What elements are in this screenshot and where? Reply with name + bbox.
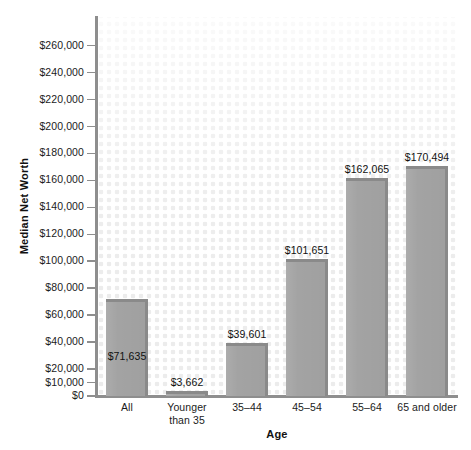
y-axis-tick-mark — [87, 287, 95, 289]
bar-value-label: $39,601 — [211, 328, 283, 340]
y-axis-tick-mark — [87, 126, 95, 128]
y-axis-tick-label-text: $220,000 — [0, 93, 84, 105]
bar-value-label: $101,651 — [271, 244, 343, 256]
y-axis-tick-label: $140,000 — [0, 200, 84, 214]
y-axis-tick-label-text: $180,000 — [0, 146, 84, 158]
y-axis-tick-mark — [87, 207, 95, 209]
y-axis-tick-label: $160,000 — [0, 173, 84, 187]
y-axis-tick-label: $180,000 — [0, 146, 84, 160]
y-axis-tick-label-text: $100,000 — [0, 254, 84, 266]
y-axis-tick-label-text: $240,000 — [0, 66, 84, 78]
y-axis-tick-label-text: $80,000 — [0, 281, 84, 293]
y-axis-tick-label-text: $160,000 — [0, 173, 84, 185]
y-axis-tick-label: $260,000 — [0, 39, 84, 53]
y-axis-tick-label-text: $260,000 — [0, 39, 84, 51]
y-axis-tick-mark — [87, 368, 95, 370]
bar — [346, 178, 388, 396]
y-axis-tick-mark — [87, 382, 95, 384]
y-axis-tick-mark — [87, 234, 95, 236]
y-axis-line — [95, 16, 98, 397]
y-axis-tick-label-text: $60,000 — [0, 308, 84, 320]
y-axis-tick-label: $0 — [0, 389, 84, 403]
bar — [406, 166, 448, 396]
y-axis-tick-mark — [87, 395, 95, 397]
bar — [106, 299, 148, 396]
y-axis-tick-label-text: $200,000 — [0, 120, 84, 132]
y-axis-tick-label: $120,000 — [0, 227, 84, 241]
y-axis-tick-label-text: $0 — [0, 389, 84, 401]
y-axis-tick-label: $20,000 — [0, 362, 84, 376]
y-axis-tick-label: $60,000 — [0, 308, 84, 322]
y-axis-tick-label-text: $140,000 — [0, 200, 84, 212]
y-axis-tick-label: $40,000 — [0, 335, 84, 349]
y-axis-tick-label: $240,000 — [0, 66, 84, 80]
y-axis-tick-label: $10,000 — [0, 376, 84, 390]
y-axis-tick-label-text: $20,000 — [0, 362, 84, 374]
y-axis-tick-label: $220,000 — [0, 93, 84, 107]
y-axis-tick-mark — [87, 99, 95, 101]
y-axis-tick-mark — [87, 153, 95, 155]
y-axis-tick-label-text: $40,000 — [0, 335, 84, 347]
x-axis-line — [95, 395, 458, 398]
bar-value-label: $162,065 — [331, 163, 403, 175]
bar — [286, 259, 328, 396]
bar — [226, 343, 268, 396]
bar-value-label: $3,662 — [151, 376, 223, 388]
y-axis-tick-label-text: $10,000 — [0, 376, 84, 388]
y-axis-tick-mark — [87, 180, 95, 182]
y-axis-tick-mark — [87, 314, 95, 316]
y-axis-tick-mark — [87, 45, 95, 47]
bar-chart: $0$10,000$20,000$40,000$60,000$80,000$10… — [0, 0, 471, 450]
bar — [166, 391, 208, 396]
bar-value-label: $71,635 — [91, 350, 163, 362]
bar-value-label: $170,494 — [391, 151, 463, 163]
x-axis-category-label: 65 and older — [388, 401, 466, 414]
y-axis-title: Median Net Worth — [18, 136, 30, 276]
y-axis-tick-label: $200,000 — [0, 120, 84, 134]
y-axis-tick-label: $100,000 — [0, 254, 84, 268]
y-axis-tick-mark — [87, 260, 95, 262]
y-axis-tick-mark — [87, 72, 95, 74]
x-axis-title: Age — [97, 428, 457, 440]
y-axis-tick-label-text: $120,000 — [0, 227, 84, 239]
y-axis-tick-mark — [87, 341, 95, 343]
y-axis-tick-label: $80,000 — [0, 281, 84, 295]
